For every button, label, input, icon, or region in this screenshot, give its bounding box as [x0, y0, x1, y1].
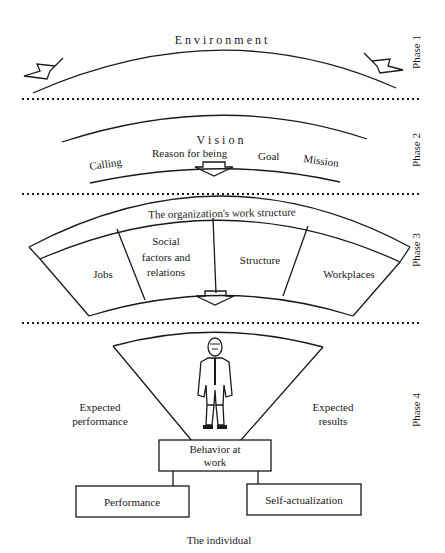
phase-4: Expected performance Expected results Be…: [72, 332, 422, 546]
expected-performance-line2: performance: [72, 415, 128, 427]
work-structure-outer-arc: [29, 196, 410, 247]
jobs-cell: Jobs: [93, 268, 113, 280]
social-cell-line1: Social: [152, 235, 180, 247]
mission-label: Mission: [303, 152, 340, 169]
right-inward-arrow-icon: [364, 53, 403, 73]
environment-arc: [33, 50, 396, 93]
left-inward-arrow-icon: [24, 58, 63, 79]
reason-for-being-label: Reason for being: [152, 147, 228, 159]
phase-1: E n v i r o n m e n t Phase 1: [24, 33, 422, 93]
phase-2: V i s i o n Calling Reason for being Goa…: [62, 115, 422, 183]
performance-label: Performance: [104, 496, 160, 508]
goal-label: Goal: [258, 150, 279, 162]
phase-3: The organization's work structure Jobs S…: [29, 196, 422, 316]
person-figure-icon: [198, 338, 232, 429]
phase-3-label: Phase 3: [410, 233, 422, 267]
vision-label: V i s i o n: [197, 133, 244, 147]
phase-2-label: Phase 2: [410, 133, 422, 167]
work-structure-inner-arc: [40, 220, 400, 262]
self-actualization-label: Self-actualization: [265, 494, 343, 506]
diagram-canvas: E n v i r o n m e n t Phase 1 V i s i o …: [0, 0, 445, 553]
individual-fan-arc: [113, 332, 323, 347]
environment-label: E n v i r o n m e n t: [175, 33, 268, 47]
structure-cell: Structure: [240, 254, 280, 266]
expected-results-line1: Expected: [313, 401, 354, 413]
work-structure-bottom-arc: [89, 296, 353, 317]
phase-1-label: Phase 1: [410, 35, 422, 69]
behavior-at-work-line2: work: [204, 456, 227, 468]
individual-caption: The individual: [187, 534, 251, 546]
expected-performance-line1: Expected: [80, 401, 121, 413]
calling-label: Calling: [89, 156, 123, 172]
phase-4-label: Phase 4: [410, 393, 422, 427]
expected-results-line2: results: [319, 415, 348, 427]
workplaces-cell: Workplaces: [323, 268, 375, 280]
behavior-at-work-line1: Behavior at: [189, 443, 240, 455]
work-structure-title: The organization's work structure: [148, 206, 296, 221]
social-cell-line2: factors and: [142, 251, 191, 263]
social-cell-line3: relations: [147, 266, 185, 278]
down-arrow-icon: [196, 291, 234, 305]
